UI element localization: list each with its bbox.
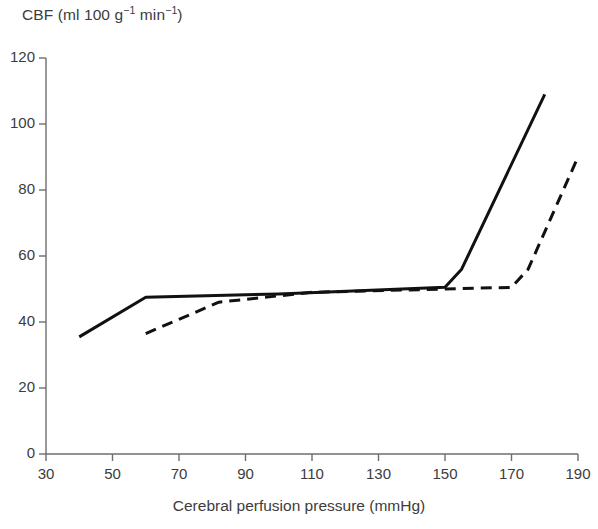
y-tick-label: 40 xyxy=(1,312,35,329)
plot-canvas xyxy=(0,0,598,529)
x-tick-label: 150 xyxy=(425,465,465,482)
series-dashed-curve xyxy=(146,157,578,334)
y-axis-label-prefix: CBF (ml 100 g xyxy=(22,6,123,23)
axes-group xyxy=(39,58,578,461)
y-tick-label: 0 xyxy=(1,444,35,461)
y-axis-label: CBF (ml 100 g−1 min−1) xyxy=(22,6,183,24)
x-tick-label: 30 xyxy=(26,465,66,482)
x-tick-label: 90 xyxy=(226,465,266,482)
x-tick-label: 110 xyxy=(292,465,332,482)
y-tick-label: 120 xyxy=(1,48,35,65)
y-tick-label: 20 xyxy=(1,378,35,395)
y-tick-label: 100 xyxy=(1,114,35,131)
x-tick-label: 190 xyxy=(558,465,598,482)
chart-figure: CBF (ml 100 g−1 min−1) 02040608010012030… xyxy=(0,0,598,529)
x-tick-label: 50 xyxy=(93,465,133,482)
y-tick-label: 80 xyxy=(1,180,35,197)
x-tick-label: 130 xyxy=(359,465,399,482)
x-axis-label: Cerebral perfusion pressure (mmHg) xyxy=(0,497,598,515)
y-axis-label-middle: min xyxy=(135,6,165,23)
y-axis-label-exponent-2: −1 xyxy=(165,4,177,16)
x-tick-label: 170 xyxy=(492,465,532,482)
y-axis-label-suffix: ) xyxy=(177,6,182,23)
x-tick-label: 70 xyxy=(159,465,199,482)
y-tick-label: 60 xyxy=(1,246,35,263)
y-axis-label-exponent-1: −1 xyxy=(123,4,135,16)
series-solid-curve xyxy=(79,94,545,337)
data-series-group xyxy=(79,94,578,337)
